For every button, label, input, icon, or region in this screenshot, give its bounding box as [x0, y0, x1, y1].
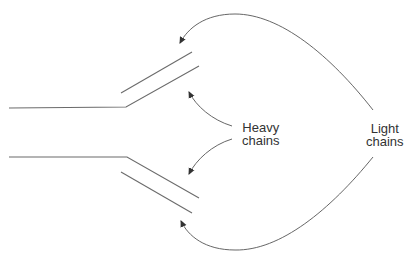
- light-chains-label: Light chains: [366, 122, 404, 148]
- upper-light-chain: [121, 52, 192, 93]
- light-chain-arrow-upper: [180, 14, 373, 110]
- upper-heavy-chain: [9, 66, 199, 108]
- heavy-chains-label-line2: chains: [242, 134, 280, 147]
- heavy-chain-arrow-upper: [189, 92, 232, 126]
- heavy-chain-arrow-lower: [189, 139, 232, 174]
- lower-light-chain: [121, 172, 192, 213]
- lower-heavy-chain: [9, 157, 199, 198]
- heavy-chains-label: Heavy chains: [242, 121, 280, 147]
- antibody-diagram: [0, 0, 406, 257]
- light-chains-label-line2: chains: [366, 135, 404, 148]
- light-chain-arrow-lower: [181, 157, 373, 250]
